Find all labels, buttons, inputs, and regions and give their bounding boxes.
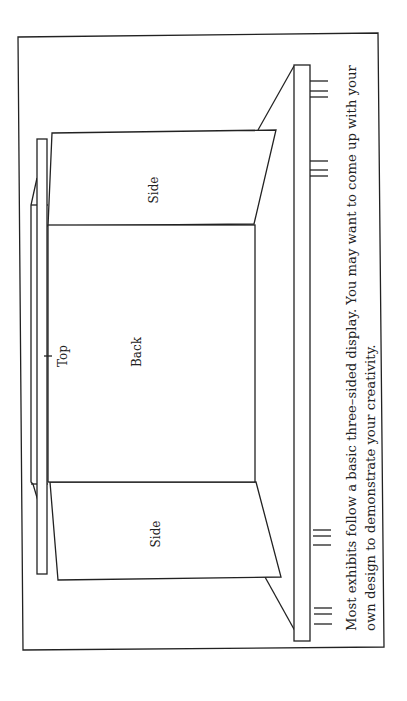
caption-line-1: Most exhibits follow a basic three–sided…	[344, 65, 359, 631]
label-top: Top	[56, 345, 70, 367]
caption-line-2: own design to demonstrate your creativit…	[363, 344, 378, 631]
side-panel-upper	[48, 130, 276, 226]
back-panel	[48, 225, 255, 482]
base-diagonal-upper	[258, 66, 294, 130]
table-legs	[310, 81, 332, 624]
label-back: Back	[130, 336, 144, 367]
label-side-lower: Side	[149, 521, 163, 548]
three-sided-display-diagram: Side Back Top Side Most exhibits follow …	[0, 0, 407, 701]
base-board	[294, 65, 310, 641]
label-side-upper: Side	[147, 177, 161, 204]
side-panel-lower	[50, 482, 281, 580]
